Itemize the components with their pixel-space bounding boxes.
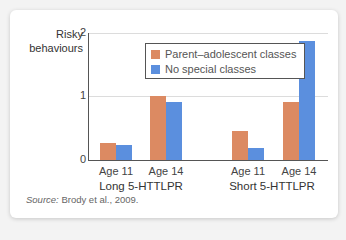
group-label-short: Short 5-HTTLPR bbox=[207, 180, 337, 192]
source-prefix: Source: bbox=[26, 194, 59, 205]
bar-nospecial-0 bbox=[116, 145, 132, 160]
y-axis-label-line2: behaviours bbox=[3, 41, 83, 55]
group-label-long: Long 5-HTTLPR bbox=[76, 180, 206, 192]
y-tick-0: 0 bbox=[76, 153, 86, 165]
legend-item-parent: Parent–adolescent classes bbox=[151, 48, 296, 60]
x-axis bbox=[88, 160, 328, 161]
legend: Parent–adolescent classes No special cla… bbox=[145, 43, 305, 79]
x-tick-long-age11: Age 11 bbox=[91, 165, 141, 177]
bar-parent-0 bbox=[100, 143, 116, 160]
bar-parent-2 bbox=[232, 131, 248, 160]
source-text: Brody et al., 2009. bbox=[59, 194, 139, 205]
legend-swatch-blue bbox=[151, 65, 160, 74]
x-tick-long-age14: Age 14 bbox=[141, 165, 191, 177]
y-tick-2: 2 bbox=[76, 26, 86, 38]
y-tick-1: 1 bbox=[76, 89, 86, 101]
source-note: Source: Brody et al., 2009. bbox=[26, 194, 139, 205]
gridline-1 bbox=[89, 96, 328, 97]
bar-nospecial-2 bbox=[248, 148, 264, 160]
y-axis-label-line1: Risky bbox=[3, 27, 83, 41]
y-axis-label: Risky behaviours bbox=[3, 27, 83, 55]
legend-item-nospecial: No special classes bbox=[151, 63, 256, 75]
gridline-2 bbox=[89, 33, 328, 34]
bar-nospecial-1 bbox=[166, 102, 182, 160]
bar-parent-3 bbox=[283, 102, 299, 160]
y-axis bbox=[88, 33, 89, 160]
legend-label-nospecial: No special classes bbox=[165, 63, 256, 75]
x-tick-short-age11: Age 11 bbox=[223, 165, 273, 177]
legend-label-parent: Parent–adolescent classes bbox=[165, 48, 296, 60]
x-tick-short-age14: Age 14 bbox=[274, 165, 324, 177]
bar-parent-1 bbox=[150, 96, 166, 160]
legend-swatch-orange bbox=[151, 50, 160, 59]
